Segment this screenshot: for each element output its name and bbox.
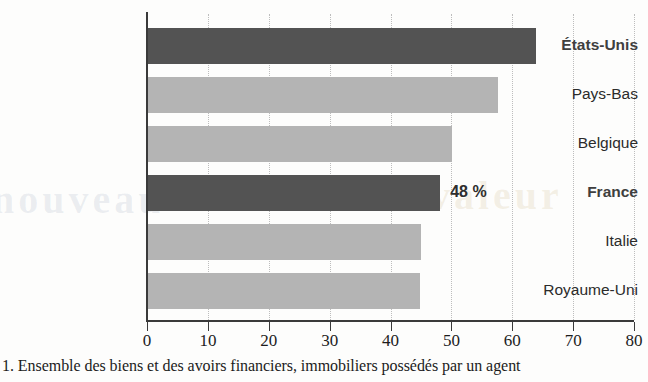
x-tick-label-10: 10 — [199, 331, 216, 351]
chart-page: nouveau valeur tableau 01020304050607080… — [0, 0, 648, 382]
bar-royaume-uni[interactable] — [148, 273, 420, 309]
x-tick-60 — [512, 322, 513, 331]
horizontal-bar-chart: 01020304050607080 États-UnisPays-BasBelg… — [0, 0, 648, 350]
x-tick-label-20: 20 — [260, 331, 277, 351]
x-tick-label-70: 70 — [565, 331, 582, 351]
footnote: 1. Ensemble des biens et des avoirs fina… — [2, 357, 646, 375]
x-tick-50 — [451, 322, 452, 331]
category-label-italie: Italie — [502, 232, 638, 250]
x-tick-30 — [330, 322, 331, 331]
category-label-belgique: Belgique — [502, 134, 638, 152]
x-tick-20 — [269, 322, 270, 331]
x-tick-80 — [634, 322, 635, 331]
x-tick-label-50: 50 — [443, 331, 460, 351]
bar-france[interactable] — [148, 175, 440, 211]
category-label--tats-unis: États-Unis — [502, 36, 638, 54]
x-tick-70 — [573, 322, 574, 331]
bar-pays-bas[interactable] — [148, 77, 498, 113]
gridline-80 — [634, 14, 635, 320]
x-tick-label-40: 40 — [382, 331, 399, 351]
x-tick-40 — [391, 322, 392, 331]
x-tick-0 — [147, 322, 148, 331]
bar--tats-unis[interactable] — [148, 28, 536, 64]
x-tick-label-30: 30 — [321, 331, 338, 351]
gridline-70 — [573, 14, 574, 320]
bar-italie[interactable] — [148, 224, 421, 260]
x-tick-label-80: 80 — [626, 331, 643, 351]
bar-belgique[interactable] — [148, 126, 452, 162]
category-label-france: France — [502, 183, 638, 201]
x-tick-label-60: 60 — [504, 331, 521, 351]
category-label-pays-bas: Pays-Bas — [502, 85, 638, 103]
value-label-france: 48 % — [450, 183, 486, 201]
x-tick-10 — [208, 322, 209, 331]
category-label-royaume-uni: Royaume-Uni — [502, 281, 638, 299]
x-tick-label-0: 0 — [143, 331, 152, 351]
